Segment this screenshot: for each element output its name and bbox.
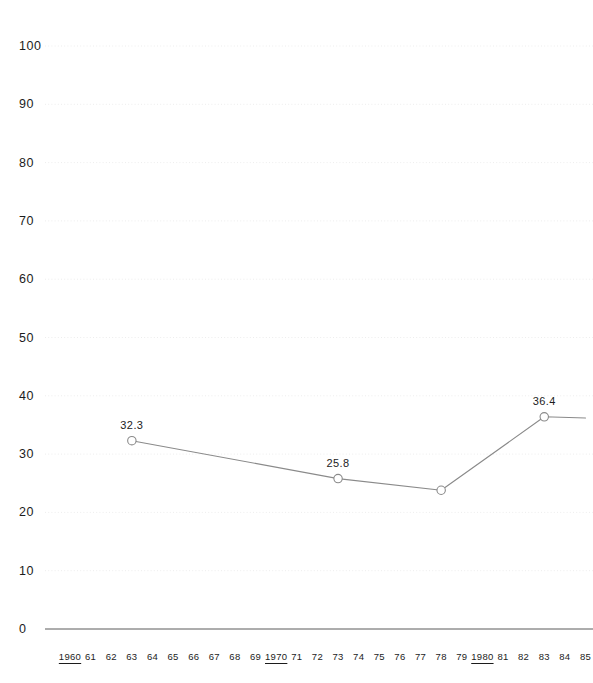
line-chart: 0102030405060708090100 19606162636465666… <box>0 0 593 683</box>
data-point-value-label: 32.3 <box>120 420 143 431</box>
data-point-marker[interactable] <box>334 474 342 482</box>
data-point-marker[interactable] <box>128 436 136 444</box>
x-axis-tick-label: 1960 <box>59 652 81 662</box>
x-axis-tick-label: 83 <box>539 652 550 662</box>
x-axis-tick-label: 67 <box>209 652 220 662</box>
x-axis-tick-label: 66 <box>188 652 199 662</box>
x-axis-tick-label: 72 <box>312 652 323 662</box>
x-axis-tick-label: 84 <box>559 652 570 662</box>
x-axis-tick-label: 73 <box>332 652 343 662</box>
data-point-markers <box>128 413 549 495</box>
x-axis-tick-label: 78 <box>436 652 447 662</box>
x-axis-tick-label: 1970 <box>265 652 287 662</box>
x-axis-tick-label: 85 <box>580 652 591 662</box>
y-axis-tick-label: 70 <box>19 215 34 228</box>
x-axis-tick-label: 1980 <box>471 652 493 662</box>
y-axis-tick-label: 20 <box>19 506 34 519</box>
y-axis-tick-label: 90 <box>19 98 34 111</box>
x-axis-tick-label: 71 <box>291 652 302 662</box>
x-axis-tick-label: 82 <box>518 652 529 662</box>
x-axis-tick-label: 61 <box>85 652 96 662</box>
y-axis-tick-label: 50 <box>19 332 34 345</box>
data-point-value-label: 36.4 <box>533 396 556 407</box>
x-axis-tick-label: 76 <box>394 652 405 662</box>
x-axis-tick-label: 81 <box>497 652 508 662</box>
x-axis-tick-label: 75 <box>374 652 385 662</box>
data-point-value-label: 25.8 <box>327 458 350 469</box>
y-axis-tick-label: 100 <box>19 40 42 53</box>
data-point-marker[interactable] <box>540 413 548 421</box>
x-axis-tick-label: 74 <box>353 652 364 662</box>
x-axis-tick-label: 68 <box>229 652 240 662</box>
x-axis-tick-label: 65 <box>168 652 179 662</box>
gridlines <box>45 46 593 571</box>
x-axis-tick-label: 69 <box>250 652 261 662</box>
x-axis-tick-label: 64 <box>147 652 158 662</box>
series-line <box>132 417 586 490</box>
x-axis-tick-label: 63 <box>126 652 137 662</box>
x-axis-tick-label: 77 <box>415 652 426 662</box>
y-axis-tick-label: 10 <box>19 565 34 578</box>
data-point-marker[interactable] <box>437 486 445 494</box>
x-axis-tick-label: 62 <box>106 652 117 662</box>
y-axis-tick-label: 80 <box>19 157 34 170</box>
x-axis-tick-label: 79 <box>456 652 467 662</box>
y-axis-tick-label: 60 <box>19 273 34 286</box>
y-axis-tick-label: 0 <box>19 623 27 636</box>
chart-plot-area <box>0 0 593 683</box>
y-axis-tick-label: 30 <box>19 448 34 461</box>
y-axis-tick-label: 40 <box>19 390 34 403</box>
